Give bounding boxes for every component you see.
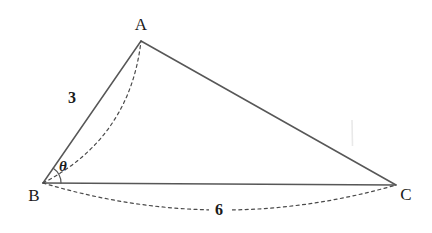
triangle-side-ac — [141, 41, 396, 185]
geometry-figure: A B C 3 6 θ — [0, 0, 432, 233]
vertex-label-a: A — [135, 15, 148, 34]
vertex-label-c: C — [400, 185, 411, 204]
triangle-side-ba — [43, 41, 141, 183]
vertex-label-b: B — [28, 186, 39, 205]
scan-artifact-streak — [352, 120, 353, 146]
triangle-side-bc — [43, 183, 396, 185]
side-measure-label-ba: 3 — [68, 89, 76, 106]
angle-label-theta: θ — [59, 158, 67, 174]
triangle-diagram-canvas: A B C 3 6 θ — [0, 0, 432, 233]
side-measure-label-bc: 6 — [215, 201, 223, 218]
